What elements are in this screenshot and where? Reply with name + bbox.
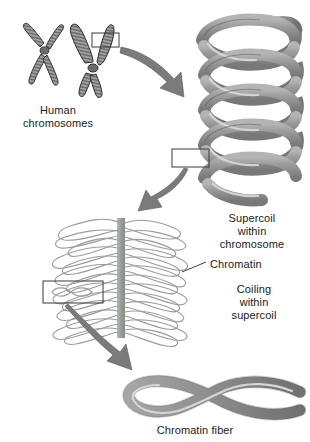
label-chromatin-fiber: Chromatin fiber bbox=[95, 424, 295, 437]
centromere-small bbox=[40, 47, 49, 54]
label-coiling-within-supercoil: Coiling within supercoil bbox=[198, 283, 310, 322]
centromere-large bbox=[88, 64, 98, 72]
arrow-supercoil-to-chromatin bbox=[138, 168, 188, 211]
leader-line-chromatin bbox=[182, 262, 206, 272]
chromatin-loop-domain bbox=[52, 218, 187, 346]
chromosome-coiling-diagram: Human chromosomes Supercoil within chrom… bbox=[0, 0, 310, 442]
label-chromatin: Chromatin bbox=[210, 258, 306, 271]
chromatin-fiber-ribbon bbox=[129, 381, 300, 414]
label-human-chromosomes: Human chromosomes bbox=[6, 104, 110, 130]
supercoil-helix bbox=[202, 19, 298, 200]
arrow-chromosome-to-supercoil bbox=[120, 47, 184, 97]
label-supercoil-within-chromosome: Supercoil within chromosome bbox=[196, 212, 308, 251]
human-chromosome-small bbox=[23, 23, 63, 85]
